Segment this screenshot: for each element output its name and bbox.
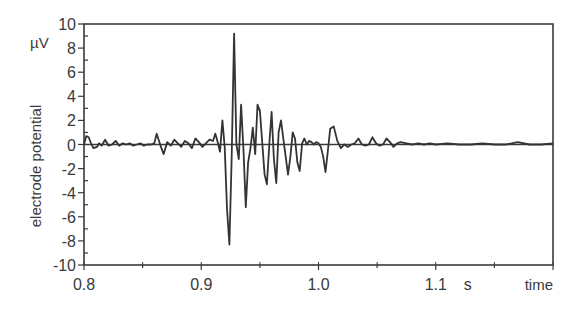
y-tick-label: -6 (62, 209, 76, 226)
y-tick-label: -10 (53, 257, 76, 274)
y-tick-label: -2 (62, 161, 76, 178)
x-tick-label: 0.9 (190, 276, 212, 293)
x-unit-label: s (464, 276, 472, 293)
x-tick-label: 1.1 (425, 276, 447, 293)
y-tick-label: 4 (67, 88, 76, 105)
y-axis-ticks: 1086420-2-4-6-8-10 (53, 16, 88, 274)
y-tick-label: 10 (58, 16, 76, 33)
y-tick-label: 6 (67, 64, 76, 81)
x-tick-label: 1.0 (307, 276, 329, 293)
electrode-potential-chart: electrode potential 1086420-2-4-6-8-10 0… (0, 0, 571, 311)
y-tick-label: -4 (62, 185, 76, 202)
svg-text:electrode potential: electrode potential (27, 105, 44, 228)
y-axis-label: electrode potential (27, 105, 44, 228)
y-tick-label: 0 (67, 137, 76, 154)
y-tick-label: 2 (67, 112, 76, 129)
x-axis-ticks: 0.80.91.01.1 (73, 262, 553, 293)
x-tick-label: 0.8 (73, 276, 95, 293)
signal-trace (84, 34, 553, 245)
x-axis-label: time (525, 276, 553, 293)
y-tick-label: -8 (62, 233, 76, 250)
y-unit-label: µV (30, 34, 49, 51)
y-tick-label: 8 (67, 40, 76, 57)
